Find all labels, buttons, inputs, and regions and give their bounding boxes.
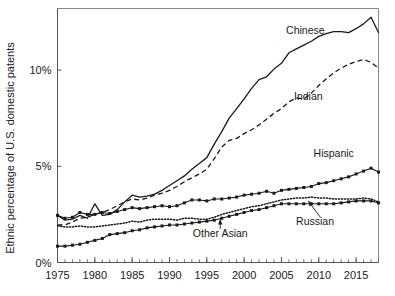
series-marker [183,223,186,226]
series-marker [78,243,81,246]
series-marker [56,245,59,248]
series-marker [272,192,275,195]
series-label-russian: Russian [296,215,334,227]
series-marker [190,198,193,201]
series-marker [101,237,104,240]
y-tick-label: 5% [36,160,52,172]
series-marker [258,208,261,211]
series-label-other-asian: Other Asian [193,227,248,239]
series-marker [168,205,171,208]
series-marker [235,213,238,216]
chart-figure: ChineseIndianHispanicRussianOther Asian … [0,0,395,296]
series-marker [377,201,380,204]
series-marker [213,219,216,222]
series-marker [63,245,66,248]
series-marker [228,197,231,200]
series-marker [131,206,134,209]
series-marker [175,223,178,226]
series-marker [250,209,253,212]
x-tick-label: 1985 [120,269,144,281]
series-marker [86,213,89,216]
series-marker [325,202,328,205]
series-marker [101,211,104,214]
x-tick-label: 2005 [269,269,293,281]
ethnic-patent-percentage-line-chart: ChineseIndianHispanicRussianOther Asian … [0,0,395,296]
series-marker [123,208,126,211]
y-tick-label: 10% [29,64,51,76]
x-tick-label: 1995 [195,269,219,281]
series-marker [243,211,246,214]
x-tick-label: 2000 [232,269,256,281]
series-label-indian: Indian [294,90,323,102]
series-marker [123,231,126,234]
series-marker [56,214,59,217]
series-marker [370,167,373,170]
series-marker [116,232,119,235]
x-tick-label: 1975 [45,269,69,281]
series-marker [93,239,96,242]
series-marker [265,206,268,209]
series-marker [340,201,343,204]
x-tick-label: 2010 [307,269,331,281]
series-marker [63,217,66,220]
series-marker [347,175,350,178]
series-marker [258,192,261,195]
series-marker [235,196,238,199]
series-marker [347,200,350,203]
series-marker [220,198,223,201]
series-label-hispanic: Hispanic [314,147,354,159]
series-marker [138,228,141,231]
series-marker [228,215,231,218]
series-marker [146,206,149,209]
series-marker [355,199,358,202]
x-axis-tick-labels: 197519801985199019952000200520102015 [45,269,368,281]
series-marker [287,202,290,205]
series-marker [146,226,149,229]
series-marker [131,229,134,232]
y-axis-title: Ethnic percentage of U.S. domestic paten… [4,42,16,254]
series-marker [362,170,365,173]
series-marker [198,221,201,224]
series-marker [198,198,201,201]
series-marker [161,224,164,227]
x-tick-label: 1990 [157,269,181,281]
series-marker [332,202,335,205]
series-marker [287,188,290,191]
series-marker [153,225,156,228]
series-marker [302,202,305,205]
series-marker [340,177,343,180]
series-marker [138,207,141,210]
series-marker [362,199,365,202]
series-marker [153,205,156,208]
series-marker [310,185,313,188]
series-label-chinese: Chinese [286,24,325,36]
series-marker [370,199,373,202]
series-marker [317,182,320,185]
series-marker [295,202,298,205]
series-marker [272,204,275,207]
x-tick-label: 2015 [344,269,368,281]
y-tick-label: 0% [36,257,52,269]
series-marker [175,204,178,207]
series-marker [190,222,193,225]
x-tick-label: 1980 [83,269,107,281]
series-marker [243,194,246,197]
series-marker [168,223,171,226]
series-marker [161,204,164,207]
series-marker [355,172,358,175]
series-marker [183,201,186,204]
series-marker [332,179,335,182]
series-marker [205,220,208,223]
series-marker [280,189,283,192]
series-marker [71,244,74,247]
series-marker [325,181,328,184]
series-marker [86,241,89,244]
series-marker [108,212,111,215]
series-marker [302,186,305,189]
series-marker [250,193,253,196]
series-marker [377,171,380,174]
series-marker [78,211,81,214]
series-marker [280,202,283,205]
series-marker [93,213,96,216]
series-marker [108,233,111,236]
